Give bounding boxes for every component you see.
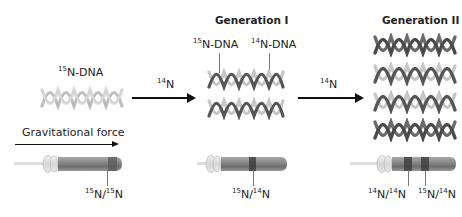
tube2-band-label: 15N/14N <box>232 188 270 201</box>
generation1-light-label: 14N-DNA <box>251 38 296 51</box>
arrow-to-generation1 <box>132 97 194 99</box>
tube2-band-leader <box>253 170 254 186</box>
generation1-helix-2 <box>207 97 285 120</box>
parent-dna-label: 15N-DNA <box>58 66 103 79</box>
tube3-light-band-leader <box>408 170 409 186</box>
generation2-title: Generation II <box>382 14 459 26</box>
generation2-helix-1 <box>373 33 457 57</box>
centrifuge-tube-2 <box>197 153 287 175</box>
parent-dna-helix <box>40 86 124 110</box>
gravitational-force-arrow <box>15 144 117 145</box>
centrifuge-tube-3 <box>350 153 456 175</box>
generation1-helix-1 <box>207 68 285 91</box>
generation2-helix-4 <box>373 118 457 142</box>
arrow-to-generation2 <box>298 97 362 99</box>
generation1-heavy-label: 15N-DNA <box>193 38 238 51</box>
tube1-band-leader <box>107 170 108 186</box>
gravitational-force-label: Gravitational force <box>22 126 124 139</box>
arrow1-label: 14N <box>157 78 174 91</box>
generation1-title: Generation I <box>215 14 288 26</box>
tube3-hybrid-band-label: 15N/14N <box>418 188 456 201</box>
centrifuge-tube-1 <box>14 153 122 175</box>
generation2-helix-2 <box>373 62 457 86</box>
tube1-band-label: 15N/15N <box>85 188 123 201</box>
tube3-light-band-label: 14N/14N <box>368 188 406 201</box>
tube3-hybrid-band-leader <box>425 170 426 186</box>
arrow2-label: 14N <box>320 78 337 91</box>
generation2-helix-3 <box>373 90 457 114</box>
